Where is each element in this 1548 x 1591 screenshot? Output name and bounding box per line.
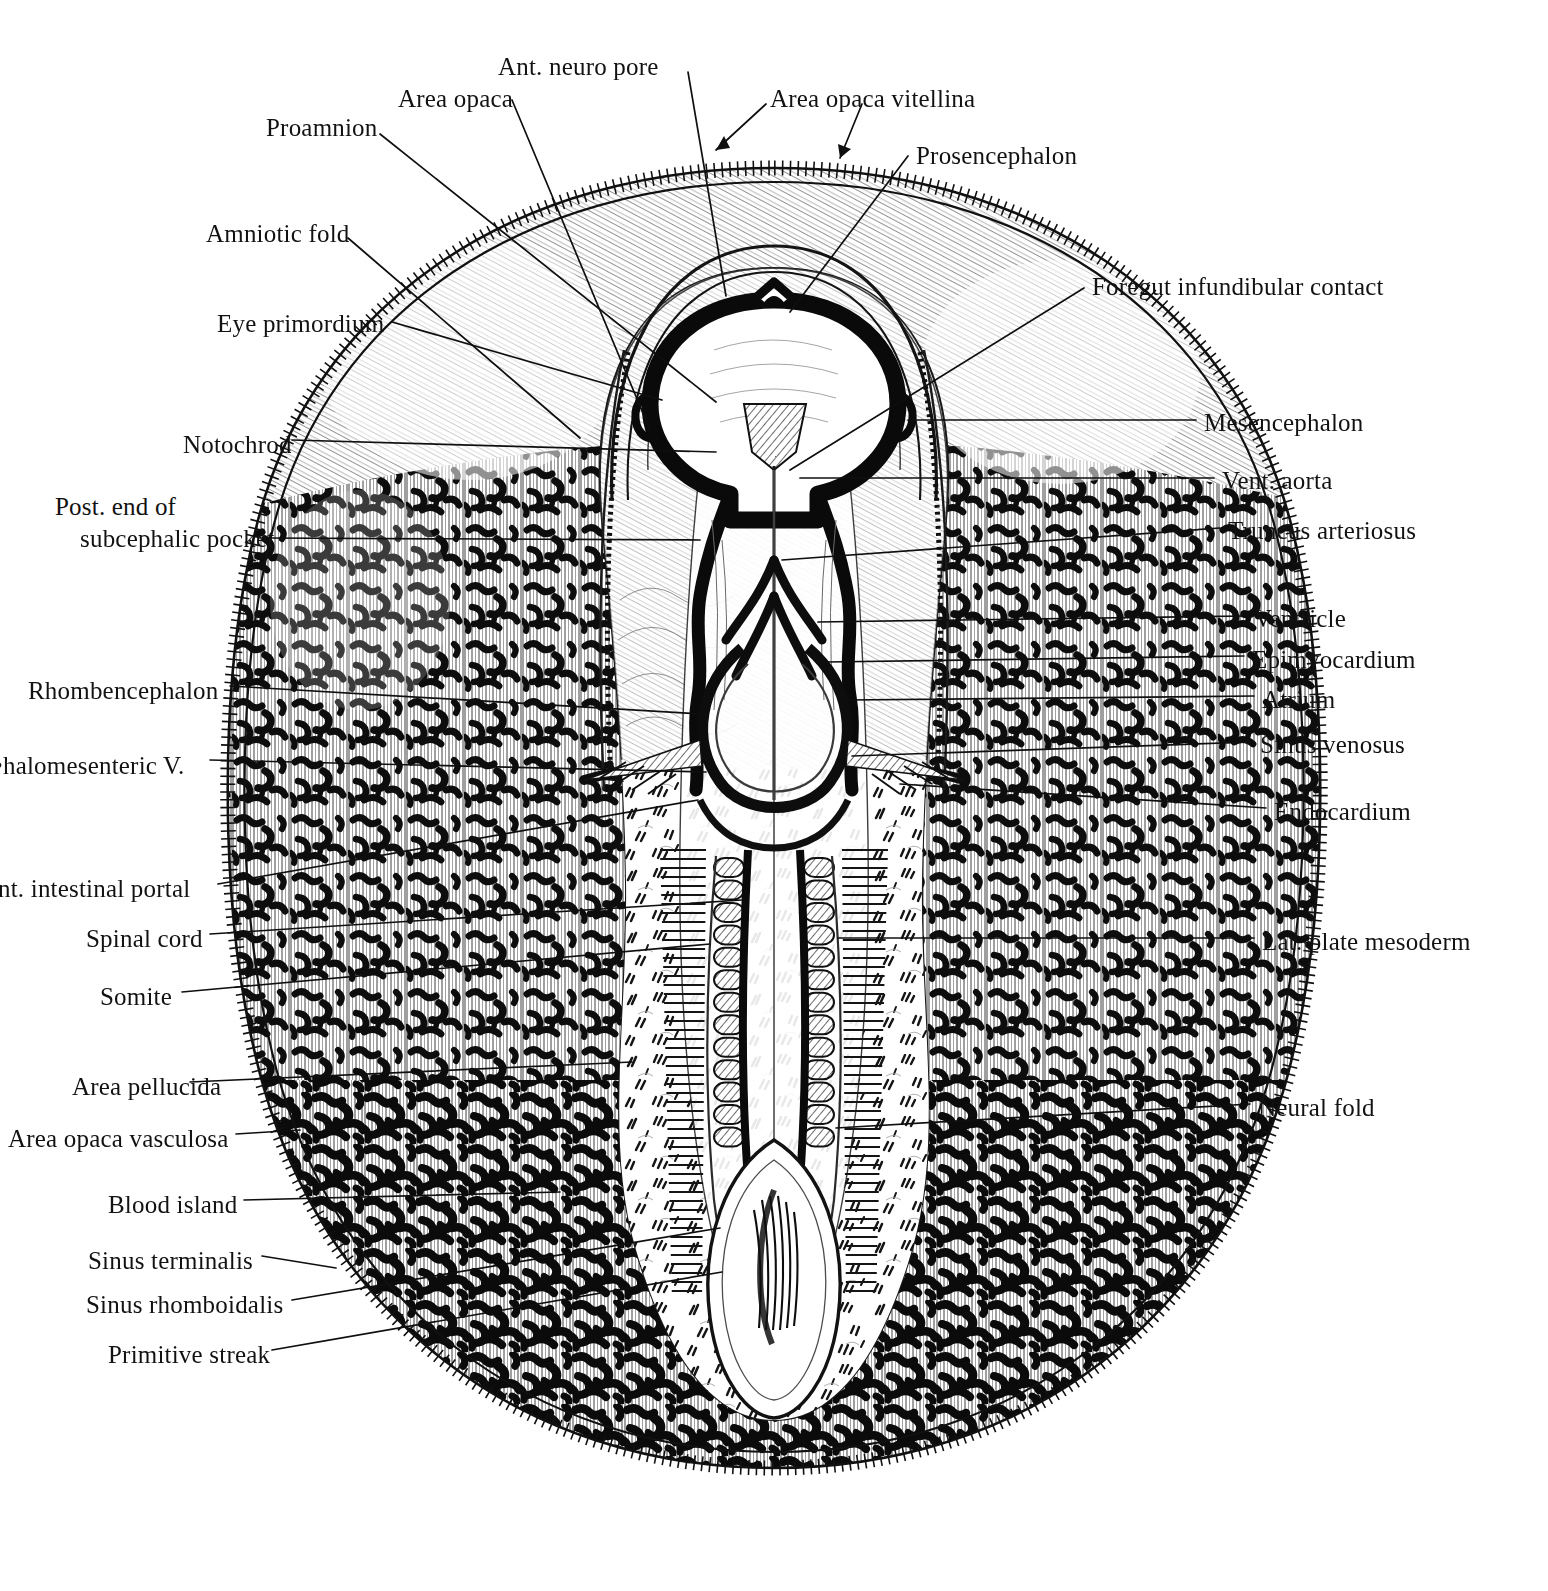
- label-somite: Somite: [100, 982, 172, 1012]
- label-spinal-cord: Spinal cord: [86, 924, 203, 954]
- label-primitive-streak: Primitive streak: [108, 1340, 270, 1370]
- label-area-opaca-vitellina: Area opaca vitellina: [770, 84, 975, 114]
- label-sinus-terminalis: Sinus terminalis: [88, 1246, 253, 1276]
- label-area-pellucida: Area pellucida: [72, 1072, 221, 1102]
- label-notochord: Notochrod: [183, 430, 292, 460]
- label-vent-aorta: Vent. aorta: [1222, 466, 1333, 496]
- label-ant-intestinal-portal: nt. intestinal portal: [0, 874, 190, 904]
- label-prosencephalon: Prosencephalon: [916, 141, 1077, 171]
- label-sinus-rhomboidalis: Sinus rhomboidalis: [86, 1290, 283, 1320]
- label-blood-island: Blood island: [108, 1190, 238, 1220]
- label-area-opaca-vasculosa: Area opaca vasculosa: [8, 1124, 229, 1154]
- label-neural-fold: Neural fold: [1258, 1093, 1375, 1123]
- label-atrium: Atrium: [1262, 685, 1335, 715]
- label-proamnion: Proamnion: [266, 113, 378, 143]
- label-rhombencephalon: Rhombencephalon: [28, 676, 218, 706]
- label-lat-plate-mesoderm: Lat. plate mesoderm: [1262, 927, 1471, 957]
- embryo-figure: Ant. neuro pore Area opaca Area opaca vi…: [0, 0, 1548, 1591]
- label-truncus-arteriosus: Truncus arteriosus: [1228, 516, 1416, 546]
- label-post-end-subcephalic-pocket-line1: Post. end of: [55, 492, 176, 522]
- label-post-end-subcephalic-pocket-line2: subcephalic pocket: [80, 524, 275, 554]
- label-eye-primordium: Eye primordium: [217, 309, 384, 339]
- label-ventricle: Ventricle: [1254, 604, 1346, 634]
- label-area-opaca: Area opaca: [398, 84, 513, 114]
- label-ant-neuro-pore: Ant. neuro pore: [498, 52, 659, 82]
- label-omphalomesenteric-vein: •halomesenteric V.: [0, 751, 185, 781]
- label-foregut-infundibular-contact: Foregut infundibular contact: [1092, 272, 1384, 302]
- label-sinus-venosus: Sinus venosus: [1260, 730, 1405, 760]
- label-amniotic-fold: Amniotic fold: [206, 219, 350, 249]
- label-mesencephalon: Mesencephalon: [1204, 408, 1364, 438]
- label-endocardium: Endocardium: [1274, 797, 1411, 827]
- label-epimyocardium: Epimyocardium: [1252, 645, 1416, 675]
